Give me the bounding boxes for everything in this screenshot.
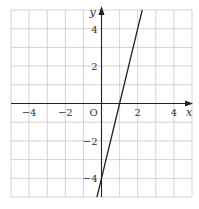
x-tick-label: 2: [135, 107, 141, 118]
coordinate-plane: −4−22442−2−4 x y O: [0, 0, 199, 209]
y-tick-label: −4: [83, 173, 98, 184]
y-axis-arrow-icon: [99, 6, 105, 15]
x-tick-label: −2: [58, 107, 73, 118]
x-tick-label: −4: [22, 107, 37, 118]
origin-label: O: [90, 107, 98, 118]
x-axis-label: x: [186, 106, 193, 119]
y-tick-label: 4: [91, 24, 97, 35]
y-tick-label: 2: [91, 61, 97, 72]
y-axis-label: y: [89, 6, 97, 19]
x-tick-label: 4: [171, 107, 177, 118]
y-tick-label: −2: [83, 136, 98, 147]
